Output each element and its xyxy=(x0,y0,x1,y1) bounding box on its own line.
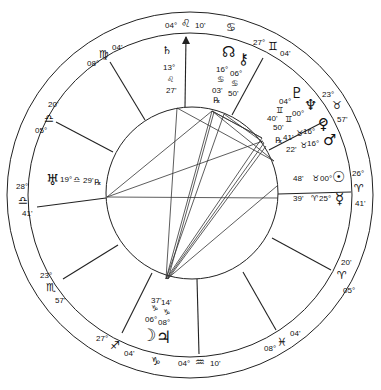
saturn-icon: ♄ xyxy=(162,45,172,56)
libra-icon: ♎ xyxy=(44,113,54,124)
chiron-icon: ⚷ xyxy=(238,52,249,67)
retrograde-icon: ℞ xyxy=(213,97,220,105)
cusp-5 xyxy=(243,272,276,330)
moon-icon: ☽ xyxy=(141,327,156,344)
aspect-lines xyxy=(107,108,278,279)
retrograde-icon: ℞ xyxy=(94,179,101,187)
mercury-icon: ☿ xyxy=(335,192,344,207)
retrograde-icon: ℞ xyxy=(275,137,282,145)
sagittarius-icon: ♐ xyxy=(110,340,120,351)
asc-degree: 28° xyxy=(16,183,28,191)
house-cusps xyxy=(37,37,351,354)
north-node-icon: ☊ xyxy=(222,45,235,60)
leo-icon: ♌ xyxy=(181,18,191,29)
capricorn-icon: ♑ xyxy=(151,356,161,367)
ic-line xyxy=(197,279,199,354)
aries-icon: ♈ xyxy=(354,183,364,194)
venus-icon: ♀ xyxy=(318,117,329,132)
neptune-icon: ♆ xyxy=(304,98,317,113)
pluto-icon: ♇ xyxy=(290,86,303,101)
asc-line xyxy=(37,198,106,207)
cancer-icon: ♋ xyxy=(226,22,236,33)
aquarius-icon: ♒ xyxy=(195,357,205,368)
mc-arrow-icon xyxy=(182,36,190,44)
gemini-icon: ♊ xyxy=(268,41,278,52)
uranus-icon: ♅ xyxy=(46,173,59,188)
libra-icon: ♎ xyxy=(18,195,28,206)
mc-line xyxy=(185,37,186,107)
scorpio-icon: ♏ xyxy=(46,282,56,293)
cusp-12 xyxy=(56,122,113,152)
cusp-11 xyxy=(110,62,145,120)
taurus-icon: ♉ xyxy=(332,100,342,111)
pisces-icon: ♓ xyxy=(277,337,287,348)
virgo-icon: ♍ xyxy=(99,49,109,60)
aries-icon: ♈ xyxy=(337,270,347,281)
cusp-2 xyxy=(63,245,118,279)
mars-icon: ♂ xyxy=(323,133,336,148)
cusp-6 xyxy=(272,238,331,270)
cusp-3 xyxy=(122,273,152,333)
jupiter-icon: ♃ xyxy=(156,329,171,346)
asc-minute: 41' xyxy=(22,210,32,218)
sun-icon: ☉ xyxy=(332,170,345,185)
